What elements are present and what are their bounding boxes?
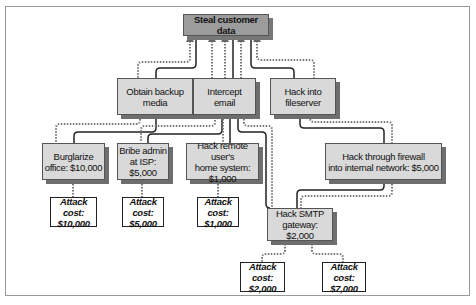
cost-label: Attack cost: $1,000 — [198, 196, 238, 229]
node-label: Obtain backup media — [126, 86, 183, 108]
attack-cost-firewall-smtp: Attack cost: $7,000 — [322, 262, 366, 292]
cost-label: Attack cost: $10,000 — [51, 196, 96, 229]
node-label: Steal customer data — [184, 14, 268, 36]
node-label: Intercept email — [207, 86, 241, 108]
node-hack-smtp-gateway: Hack SMTP gateway: $2,000 — [267, 208, 333, 241]
cost-label: Attack cost: $2,000 — [241, 261, 284, 294]
attack-cost-burglarize: Attack cost: $10,000 — [50, 197, 97, 227]
cost-label: Attack cost: $5,000 — [123, 196, 163, 229]
node-steal-customer-data: Steal customer data — [183, 14, 269, 36]
node-hack-remote-user: Hack remote user's home system: $1,000 — [186, 143, 259, 180]
node-hack-into-fileserver: Hack into fileserver — [270, 78, 336, 115]
node-label: Hack through firewall into internal netw… — [328, 151, 439, 173]
attack-cost-bribe: Attack cost: $5,000 — [122, 197, 164, 227]
attack-cost-smtp: Attack cost: $2,000 — [240, 262, 285, 292]
node-bribe-admin: Bribe admin at ISP: $5,000 — [117, 143, 169, 180]
attack-cost-remote: Attack cost: $1,000 — [197, 197, 239, 227]
node-intercept-email: Intercept email — [193, 78, 256, 115]
node-burglarize-office: Burglarize office: $10,000 — [42, 143, 105, 180]
node-label: Burglarize office: $10,000 — [45, 151, 103, 173]
node-label: Hack SMTP gateway: $2,000 — [268, 208, 332, 241]
node-obtain-backup-media: Obtain backup media — [117, 78, 193, 115]
node-label: Bribe admin at ISP: $5,000 — [118, 145, 168, 178]
node-label: Hack into fileserver — [285, 86, 322, 108]
node-hack-through-firewall: Hack through firewall into internal netw… — [325, 143, 442, 180]
node-label: Hack remote user's home system: $1,000 — [187, 140, 258, 184]
cost-label: Attack cost: $7,000 — [323, 261, 365, 294]
